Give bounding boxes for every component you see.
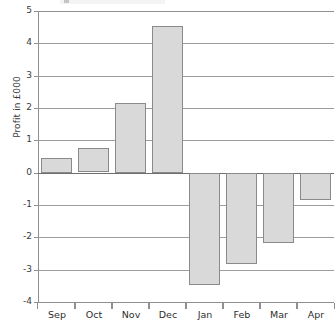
y-axis-tick-mark xyxy=(34,11,38,12)
clipped-title-artifact xyxy=(60,0,165,4)
bar xyxy=(189,173,220,285)
bar xyxy=(152,26,183,173)
bar xyxy=(115,103,146,173)
y-axis-tick-label: -4 xyxy=(6,296,32,306)
gridline xyxy=(38,270,334,271)
x-axis-tick-label: Sep xyxy=(37,309,77,320)
y-axis-tick-label: -2 xyxy=(6,231,32,241)
y-axis-tick-label: -3 xyxy=(6,264,32,274)
x-axis-tick-label: Mar xyxy=(259,309,299,320)
y-axis-tick-mark xyxy=(34,270,38,271)
y-axis-tick-mark xyxy=(34,140,38,141)
x-axis-tick-label: Feb xyxy=(222,309,262,320)
y-axis-tick-mark xyxy=(34,43,38,44)
gridline xyxy=(38,140,334,141)
x-axis-tick-label: Jan xyxy=(185,309,225,320)
y-axis-tick-label: 1 xyxy=(6,134,32,144)
x-axis-tick-label: Apr xyxy=(296,309,336,320)
gridline xyxy=(38,76,334,77)
bar xyxy=(300,173,331,200)
x-axis-tick-label: Oct xyxy=(74,309,114,320)
y-axis-tick-mark xyxy=(34,108,38,109)
y-axis-tick-label: -1 xyxy=(6,199,32,209)
y-axis-tick-mark xyxy=(34,76,38,77)
gridline xyxy=(38,108,334,109)
x-axis-tick-label: Dec xyxy=(148,309,188,320)
x-axis-tick-label: Nov xyxy=(111,309,151,320)
bar xyxy=(41,158,72,173)
clipped-title-glyph xyxy=(64,0,69,3)
bar xyxy=(263,173,294,243)
y-axis-tick-mark xyxy=(34,237,38,238)
gridline xyxy=(38,43,334,44)
y-axis-tick-mark xyxy=(34,205,38,206)
bar xyxy=(78,148,109,172)
y-axis-tick-label: 0 xyxy=(6,167,32,177)
y-axis-tick-mark xyxy=(34,173,38,174)
plot-area xyxy=(38,11,334,302)
y-axis-tick-label: 3 xyxy=(6,70,32,80)
y-axis-tick-label: 5 xyxy=(6,5,32,15)
bar xyxy=(226,173,257,264)
y-axis-tick-label: 2 xyxy=(6,102,32,112)
y-axis-tick-label: 4 xyxy=(6,37,32,47)
